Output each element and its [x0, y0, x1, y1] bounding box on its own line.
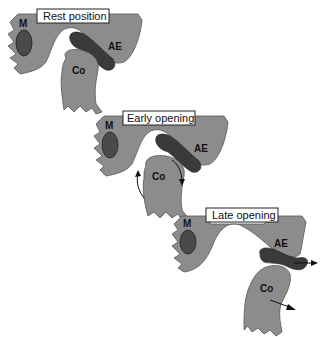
panel-title: Late opening	[212, 209, 276, 221]
label-articular-eminence: AE	[274, 238, 288, 249]
lateral-pterygoid-muscle	[102, 132, 118, 158]
panel-rest-position: Rest position M AE Co	[8, 9, 142, 114]
label-condyle: Co	[152, 171, 165, 182]
diagram-canvas: Rest position M AE Co Early opening M AE…	[0, 0, 320, 337]
panel-early-opening: Early opening M AE Co	[94, 111, 228, 220]
lateral-pterygoid-muscle	[16, 30, 32, 56]
panel-title: Early opening	[127, 112, 194, 124]
mandibular-condyle	[244, 266, 290, 336]
arrow-head-icon	[135, 170, 141, 177]
tmj-opening-diagram: Rest position M AE Co Early opening M AE…	[0, 0, 320, 337]
label-muscle: M	[183, 218, 191, 229]
mandibular-condyle	[61, 49, 102, 114]
arrow-head-icon	[311, 260, 318, 266]
label-muscle: M	[105, 120, 113, 131]
lateral-pterygoid-muscle	[180, 230, 196, 254]
panel-late-opening: Late opening M AE Co	[172, 208, 318, 336]
panel-title: Rest position	[43, 10, 107, 22]
label-condyle: Co	[72, 65, 85, 76]
label-muscle: M	[19, 18, 27, 29]
label-articular-eminence: AE	[194, 143, 208, 154]
mandibular-condyle	[143, 155, 188, 220]
label-condyle: Co	[260, 283, 273, 294]
label-articular-eminence: AE	[108, 41, 122, 52]
arrow-head-icon	[286, 304, 296, 310]
